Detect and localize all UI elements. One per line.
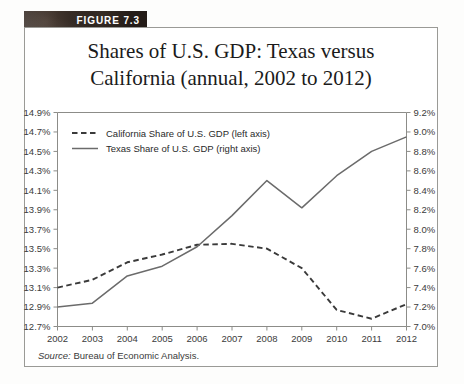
figure-number-label: FIGURE 7.3 (77, 14, 140, 25)
figure-title: Shares of U.S. GDP: Texas versus Califor… (28, 38, 434, 92)
figure-container: FIGURE 7.3 Shares of U.S. GDP: Texas ver… (0, 0, 464, 384)
source-value: Bureau of Economic Analysis. (73, 350, 199, 361)
source-label: Source: (38, 350, 71, 361)
figure-number-banner: FIGURE 7.3 (24, 11, 147, 28)
source-note: Source: Bureau of Economic Analysis. (38, 350, 199, 361)
figure-title-line-2: California (annual, 2002 to 2012) (28, 65, 434, 92)
figure-title-line-1: Shares of U.S. GDP: Texas versus (28, 38, 434, 65)
